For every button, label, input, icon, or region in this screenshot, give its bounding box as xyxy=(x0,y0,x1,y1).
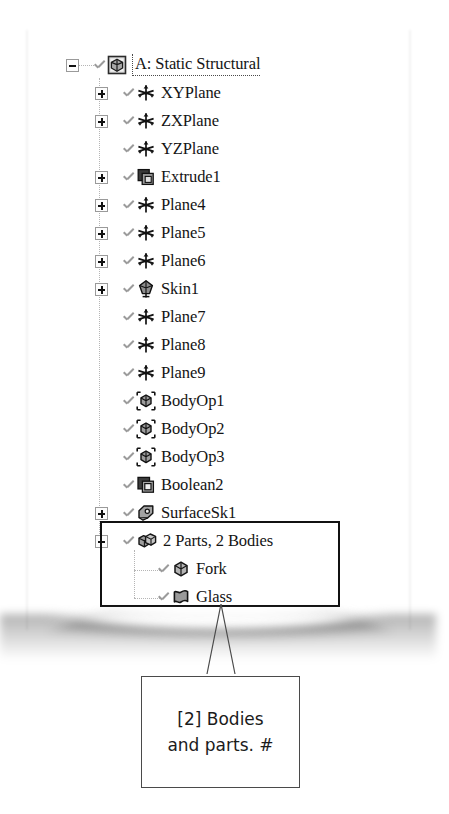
tree-row-plane9[interactable]: Plane9 xyxy=(95,359,205,387)
tree-row-parts-bodies[interactable]: 2 Parts, 2 Bodies xyxy=(95,527,273,555)
tree-row-fork[interactable]: Fork xyxy=(130,555,227,583)
expander-plus-icon[interactable] xyxy=(95,87,108,100)
tree-row-label: Boolean2 xyxy=(161,475,223,495)
check-icon xyxy=(122,367,135,380)
check-icon xyxy=(122,199,135,212)
check-icon xyxy=(122,507,135,520)
check-icon xyxy=(122,479,135,492)
plane-icon xyxy=(136,223,156,243)
check-icon xyxy=(122,451,135,464)
tree-row-label: XYPlane xyxy=(161,83,221,103)
check-icon xyxy=(122,311,135,324)
boolean-icon xyxy=(136,475,156,495)
tree-row-label: ZXPlane xyxy=(161,111,219,131)
check-icon xyxy=(122,283,135,296)
tree-row-plane8[interactable]: Plane8 xyxy=(95,331,205,359)
tree-row-xyplane[interactable]: XYPlane xyxy=(95,79,221,107)
tree-row-zxplane[interactable]: ZXPlane xyxy=(95,107,219,135)
check-icon xyxy=(122,255,135,268)
expander-minus-icon[interactable] xyxy=(95,535,108,548)
expander-plus-icon[interactable] xyxy=(95,507,108,520)
body-operation-icon xyxy=(136,391,156,411)
body-operation-icon xyxy=(136,419,156,439)
tree-row-plane5[interactable]: Plane5 xyxy=(95,219,205,247)
tree-row-bodyop1[interactable]: BodyOp1 xyxy=(95,387,224,415)
tree-row-label: Glass xyxy=(196,587,232,607)
tree-row-label: Plane6 xyxy=(161,251,205,271)
tree-row-bodyop2[interactable]: BodyOp2 xyxy=(95,415,224,443)
plane-icon xyxy=(136,307,156,327)
page-edge-left xyxy=(26,30,28,630)
expander-plus-icon[interactable] xyxy=(95,255,108,268)
check-icon xyxy=(122,423,135,436)
tree-row-label: 2 Parts, 2 Bodies xyxy=(163,531,273,551)
skin-loft-icon xyxy=(136,279,156,299)
tree-row-plane6[interactable]: Plane6 xyxy=(95,247,205,275)
plane-icon xyxy=(136,335,156,355)
check-icon xyxy=(122,395,135,408)
tree-row-label: Extrude1 xyxy=(161,167,221,187)
check-icon xyxy=(122,143,135,156)
plane-icon xyxy=(136,363,156,383)
tree-row-label: SurfaceSk1 xyxy=(161,503,236,523)
expander-plus-icon[interactable] xyxy=(95,283,108,296)
plane-icon xyxy=(136,83,156,103)
expander-plus-icon[interactable] xyxy=(95,227,108,240)
check-icon xyxy=(122,115,135,128)
tree-row-label: Plane7 xyxy=(161,307,205,327)
tree-row-plane4[interactable]: Plane4 xyxy=(95,191,205,219)
plane-icon xyxy=(136,251,156,271)
tree-row-label: BodyOp2 xyxy=(161,419,224,439)
solid-body-icon xyxy=(171,559,191,579)
expander-plus-icon[interactable] xyxy=(95,115,108,128)
callout-line-2: and parts. # xyxy=(167,732,273,758)
tree-row-skin1[interactable]: Skin1 xyxy=(95,275,199,303)
check-icon xyxy=(122,227,135,240)
check-icon xyxy=(157,563,170,576)
geometry-project-icon xyxy=(107,55,127,75)
tree-row-label: Plane4 xyxy=(161,195,205,215)
plane-icon xyxy=(136,111,156,131)
tree-row-glass[interactable]: Glass xyxy=(130,583,232,611)
page-edge-right xyxy=(409,30,411,630)
tree-row-label: YZPlane xyxy=(161,139,219,159)
body-operation-icon xyxy=(136,447,156,467)
surface-sketch-icon xyxy=(136,503,156,523)
tree-row-label: Plane5 xyxy=(161,223,205,243)
tree-row-plane7[interactable]: Plane7 xyxy=(95,303,205,331)
tree-row-label: BodyOp1 xyxy=(161,391,224,411)
extrude-icon xyxy=(136,167,156,187)
expander-minus-icon[interactable] xyxy=(66,59,79,72)
tree-row-bodyop3[interactable]: BodyOp3 xyxy=(95,443,224,471)
parts-bodies-icon xyxy=(136,531,158,551)
expander-plus-icon[interactable] xyxy=(95,171,108,184)
callout-line-1: [2] Bodies xyxy=(177,706,263,732)
plane-icon xyxy=(136,139,156,159)
check-icon xyxy=(122,535,135,548)
tree-row-yzplane[interactable]: YZPlane xyxy=(95,135,219,163)
tree-row-extrude1[interactable]: Extrude1 xyxy=(95,163,221,191)
surface-body-icon xyxy=(171,587,191,607)
check-icon xyxy=(122,339,135,352)
tree-row-label: BodyOp3 xyxy=(161,447,224,467)
tree-row-label: A: Static Structural xyxy=(132,54,260,76)
check-icon xyxy=(157,591,170,604)
tree-row-surfacesk1[interactable]: SurfaceSk1 xyxy=(95,499,236,527)
check-icon xyxy=(93,59,106,72)
check-icon xyxy=(122,171,135,184)
tree-row-label: Fork xyxy=(196,559,227,579)
plane-icon xyxy=(136,195,156,215)
tree-row-label: Plane8 xyxy=(161,335,205,355)
annotation-callout: [2] Bodies and parts. # xyxy=(141,676,300,788)
tree-row-label: Skin1 xyxy=(161,279,199,299)
check-icon xyxy=(122,87,135,100)
expander-plus-icon[interactable] xyxy=(95,199,108,212)
tree-row-boolean2[interactable]: Boolean2 xyxy=(95,471,223,499)
tree-row-label: Plane9 xyxy=(161,363,205,383)
tree-row-static-structural[interactable]: A: Static Structural xyxy=(66,51,260,79)
